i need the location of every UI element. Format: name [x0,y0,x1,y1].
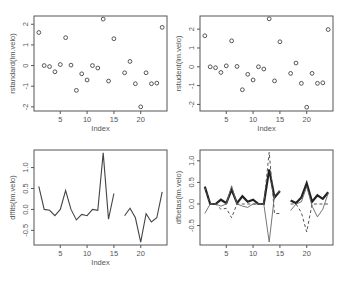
data-point [48,65,52,69]
x-tick-label: 5 [224,115,228,124]
data-point [257,65,261,69]
x-tick-label: 20 [303,115,311,124]
y-tick-label: -2 [187,101,196,108]
data-point [240,88,244,92]
series-line [125,192,163,242]
plot-frame [34,16,167,111]
x-tick-label: 20 [137,249,145,258]
data-point [224,64,228,68]
y-tick-label: 0.0 [21,204,30,214]
x-tick-label: 15 [110,249,118,258]
data-point [74,88,78,92]
x-tick-label: 15 [110,115,118,124]
plot-frame [200,150,333,245]
rstudent-plot: 5101520-2-1012Indexrstudent(lm.velo) [174,16,333,133]
x-tick-label: 20 [137,115,145,124]
data-point [214,66,218,70]
data-point [273,79,277,83]
series-line-dashed [291,204,329,232]
x-axis-label: Index [91,258,110,267]
x-axis-label: Index [91,124,110,133]
data-point [150,82,154,86]
y-tick-label: 2 [187,27,196,31]
data-point [123,71,127,75]
data-point [139,105,143,109]
y-tick-label: 2 [21,22,30,26]
y-tick-label: -2 [21,104,30,111]
data-point [69,63,73,67]
series-line-thick [291,183,329,203]
series-line-thick [205,169,280,204]
data-point [133,82,137,86]
y-axis-label: dffits(lm.velo) [8,175,17,220]
dffits-plot: 5101520-0.50.00.51.0Indexdffits(lm.velo) [8,150,167,267]
y-tick-label: 0 [21,63,30,67]
data-point [278,40,282,44]
x-tick-label: 15 [276,115,284,124]
y-axis-label: rstandard(lm.velo) [8,33,17,94]
rstandard-plot: 5101520-2-1012Indexrstandard(lm.velo) [8,16,167,133]
x-tick-label: 10 [249,249,257,258]
x-tick-label: 5 [224,249,228,258]
data-point [326,28,330,32]
data-point [64,36,68,40]
x-tick-label: 10 [83,115,91,124]
data-point [160,25,164,29]
y-tick-label: 1 [187,46,196,50]
dfbetas-plot: 5101520-0.50.00.51.0dfbetas(lm.velo) [174,150,333,258]
data-point [128,60,132,64]
y-tick-label: 0 [187,65,196,69]
data-point [246,72,250,76]
data-point [230,39,234,43]
y-axis-label: rstudent(lm.velo) [174,35,183,91]
data-point [262,67,266,71]
data-point [96,66,100,70]
data-point [267,17,271,21]
y-tick-label: 1.0 [21,162,30,172]
y-tick-label: 1.0 [187,156,196,166]
x-axis-label: Index [257,124,276,133]
x-tick-label: 15 [276,249,284,258]
y-axis-label: dfbetas(lm.velo) [174,170,183,224]
series-line-dashed [205,152,280,218]
series-line [39,153,114,220]
data-point [107,79,111,83]
data-point [289,71,293,75]
data-point [321,81,325,85]
x-tick-label: 10 [83,249,91,258]
data-point [203,34,207,38]
y-tick-label: -0.5 [21,224,30,237]
y-tick-label: 1 [21,43,30,47]
data-point [58,63,62,67]
data-point [299,81,303,85]
data-point [37,31,41,35]
data-point [112,37,116,41]
plot-canvas: 5101520-2-1012Indexrstandard(lm.velo)510… [0,0,344,281]
plot-frame [200,16,333,111]
data-point [144,71,148,75]
y-tick-label: -1 [21,83,30,90]
x-tick-label: 10 [249,115,257,124]
data-point [155,81,159,85]
data-point [208,65,212,69]
data-point [85,78,89,82]
y-tick-label: -0.5 [187,219,196,232]
data-point [251,78,255,82]
y-tick-label: 0.5 [21,183,30,193]
y-tick-label: 0.0 [187,199,196,209]
data-point [316,81,320,85]
plot-frame [34,150,167,245]
data-point [101,17,105,21]
x-tick-label: 5 [58,249,62,258]
data-point [235,65,239,69]
x-tick-label: 20 [303,249,311,258]
x-tick-label: 5 [58,115,62,124]
data-point [42,64,46,68]
data-point [305,105,309,109]
data-point [294,61,298,65]
series-line-thin [205,186,280,242]
data-point [219,71,223,75]
data-point [91,64,95,68]
data-point [310,71,314,75]
data-point [80,72,84,76]
